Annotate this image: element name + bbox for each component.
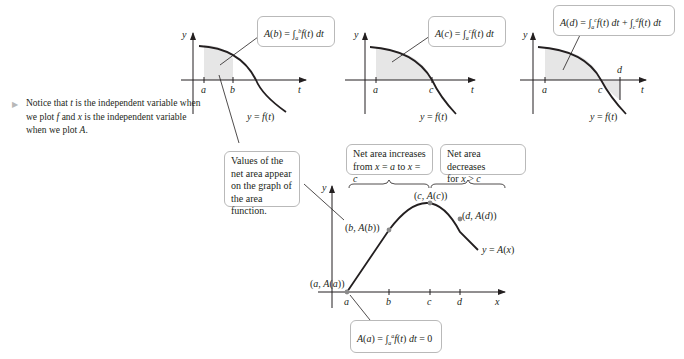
curve-label: y = f(t) xyxy=(247,111,274,122)
curve-label: y = f(t) xyxy=(590,111,617,122)
shaded-area-a-to-c xyxy=(376,48,432,80)
tick-a: a xyxy=(542,84,547,95)
callout-zero: A(a) = ∫aaf(t) dt = 0 xyxy=(350,320,442,353)
y-label: y xyxy=(322,182,326,193)
point-a xyxy=(345,290,350,295)
tick-c: c xyxy=(427,296,431,307)
tick-b: b xyxy=(230,84,235,95)
callout-increase: Net area increasesfrom x = a to x = c xyxy=(346,144,433,175)
tick-d: d xyxy=(457,296,462,307)
area-function-graph xyxy=(304,180,505,320)
point-label-b: (b, A(b)) xyxy=(345,222,379,233)
t-label: t xyxy=(641,84,644,95)
formula-A-c: A(c) = ∫acf(t) dt xyxy=(428,16,506,47)
curve-A xyxy=(347,203,478,292)
tick-c: c xyxy=(429,84,433,95)
side-note-text: Notice that t is the independent variabl… xyxy=(12,97,202,138)
tick-b: b xyxy=(386,296,391,307)
callout-values: Values of the net area appear on the gra… xyxy=(224,151,300,207)
tick-c: c xyxy=(598,84,602,95)
panel-area-d xyxy=(520,33,646,114)
y-label: y xyxy=(354,29,358,40)
callout-decrease: Net area decreasesfor x > c xyxy=(440,144,526,175)
shaded-area-a-to-c xyxy=(545,48,601,80)
point-label-d: (d, A(d)) xyxy=(462,210,496,221)
t-label: t xyxy=(471,84,474,95)
point-c xyxy=(428,201,433,206)
formula-A-b: A(b) = ∫abf(t) dt xyxy=(257,16,335,47)
shaded-area-c-to-d xyxy=(601,80,620,100)
tick-d: d xyxy=(617,64,622,75)
x-label: x xyxy=(495,296,499,307)
curve-label-A: y = A(x) xyxy=(482,244,514,255)
point-label-a: (a, A(a)) xyxy=(310,278,344,289)
y-label: y xyxy=(182,29,186,40)
leader-line-to-values xyxy=(219,75,239,143)
side-note: ▶ Notice that t is the independent varia… xyxy=(12,97,202,138)
shaded-area-a-to-b xyxy=(204,45,233,80)
note-marker-icon: ▶ xyxy=(12,98,18,112)
formula-A-d: A(d) = ∫acf(t) dt + ∫cdf(t) dt xyxy=(553,5,675,36)
point-b xyxy=(387,228,392,233)
brace-increase xyxy=(349,180,429,188)
diagram-canvas xyxy=(0,0,684,359)
tick-a: a xyxy=(373,84,378,95)
tick-a: a xyxy=(201,84,206,95)
point-label-c: (c, A(c)) xyxy=(414,190,447,201)
curve-label: y = f(t) xyxy=(420,111,447,122)
y-label: y xyxy=(523,29,527,40)
tick-a: a xyxy=(344,296,349,307)
t-label: t xyxy=(298,84,301,95)
